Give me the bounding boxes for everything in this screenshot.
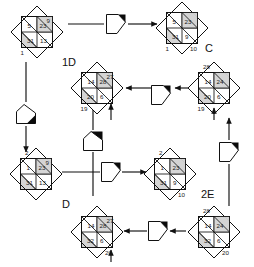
face-value-bottom-right: 20 xyxy=(222,249,229,256)
face-value-upper-right: 23 xyxy=(40,22,47,29)
face-value-upper-left: 1 xyxy=(27,164,31,171)
face-value-top-left: 2 xyxy=(159,149,163,156)
face-value-upper-left: 1 xyxy=(161,164,165,171)
face-value-upper-right: 23 xyxy=(185,18,192,25)
face-value-upper-right: 23 xyxy=(173,164,180,171)
face-value-upper-left: 14 xyxy=(88,78,95,85)
face-value-upper-left: 14 xyxy=(205,222,212,229)
op-center-mid[interactable] xyxy=(84,132,103,151)
face-value-lower-right: 9 xyxy=(173,179,177,186)
face-value-top-left: 2 xyxy=(25,149,29,156)
face-value-lower-right: 13 xyxy=(39,179,46,186)
diagram-canvas: 9523311315233191102714282061928142420619… xyxy=(0,0,254,267)
face-value-upper-right: 23 xyxy=(39,164,46,171)
operator-body xyxy=(84,132,103,151)
node-bottom-row-left[interactable]: 27142832620 xyxy=(71,206,123,258)
op-left-upper[interactable] xyxy=(17,105,36,124)
face-value-bottom-right: 10 xyxy=(178,191,185,198)
label-c: C xyxy=(205,42,213,54)
face-value-lower-left: 31 xyxy=(172,33,179,40)
label-2e: 2E xyxy=(201,188,214,200)
op-bottom-left[interactable] xyxy=(149,222,168,241)
node-top-right[interactable]: 523319110 xyxy=(156,2,208,54)
node-bottom-mid[interactable]: 212331910 xyxy=(144,148,196,200)
operator-body xyxy=(102,163,121,182)
label-1d: 1D xyxy=(62,56,76,68)
face-value-bottom-left: 19 xyxy=(198,105,205,112)
face-value-lower-right: 6 xyxy=(100,237,104,244)
face-value-lower-right: 6 xyxy=(217,93,221,100)
label-d: D xyxy=(62,198,70,210)
face-value-upper-right: 24 xyxy=(217,222,224,229)
operator-body xyxy=(149,222,168,241)
node-top-left[interactable]: 952331131 xyxy=(11,6,63,58)
face-value-lower-left: 20 xyxy=(87,93,94,100)
face-value-lower-left: 32 xyxy=(204,237,211,244)
operator-body xyxy=(17,105,36,124)
face-value-lower-right: 13 xyxy=(40,37,47,44)
operator-body xyxy=(107,15,126,34)
face-value-bottom-left: 1 xyxy=(21,49,25,56)
face-value-top-right: 9 xyxy=(47,17,51,24)
face-value-upper-left: 5 xyxy=(173,18,177,25)
face-value-upper-right: 24 xyxy=(217,78,224,85)
face-value-lower-left: 20 xyxy=(204,93,211,100)
face-value-top-right: 27 xyxy=(107,217,114,224)
node-mid-right[interactable]: 28142420619 xyxy=(188,62,240,114)
op-center-upper[interactable] xyxy=(152,86,171,105)
op-center-row[interactable] xyxy=(102,163,121,182)
face-value-lower-left: 31 xyxy=(26,179,33,186)
face-value-bottom-left: 19 xyxy=(81,105,88,112)
face-value-lower-right: 9 xyxy=(185,33,189,40)
face-value-upper-left: 14 xyxy=(88,222,95,229)
face-value-lower-left: 32 xyxy=(87,237,94,244)
op-right-lower[interactable] xyxy=(220,143,239,162)
node-mid-left[interactable]: 27142820619 xyxy=(71,62,123,114)
face-value-upper-left: 14 xyxy=(205,78,212,85)
face-value-bottom-right: 10 xyxy=(190,45,197,52)
face-value-lower-left: 31 xyxy=(27,37,34,44)
face-value-top-left: 28 xyxy=(203,63,210,70)
face-value-bottom-right: 20 xyxy=(105,249,112,256)
op-top-center[interactable] xyxy=(107,15,126,34)
node-bottom-left[interactable]: 291233113 xyxy=(10,148,62,200)
face-value-top-left: 28 xyxy=(203,207,210,214)
face-value-upper-right: 28 xyxy=(100,222,107,229)
label-layer: 1DCD2E xyxy=(62,42,214,210)
operator-body xyxy=(152,86,171,105)
face-value-top-right: 9 xyxy=(46,159,50,166)
face-value-lower-right: 6 xyxy=(100,93,104,100)
node-layer: 9523311315233191102714282061928142420619… xyxy=(10,2,240,258)
node-bottom-row-right[interactable]: 28142432620 xyxy=(188,206,240,258)
face-value-bottom-left: 1 xyxy=(166,45,170,52)
transition-diagram: 9523311315233191102714282061928142420619… xyxy=(0,0,254,267)
face-value-top-right: 27 xyxy=(107,73,114,80)
face-value-lower-right: 6 xyxy=(217,237,221,244)
face-value-lower-left: 31 xyxy=(160,179,167,186)
face-value-upper-left: 5 xyxy=(28,22,32,29)
face-value-upper-right: 28 xyxy=(100,78,107,85)
operator-body xyxy=(220,143,239,162)
